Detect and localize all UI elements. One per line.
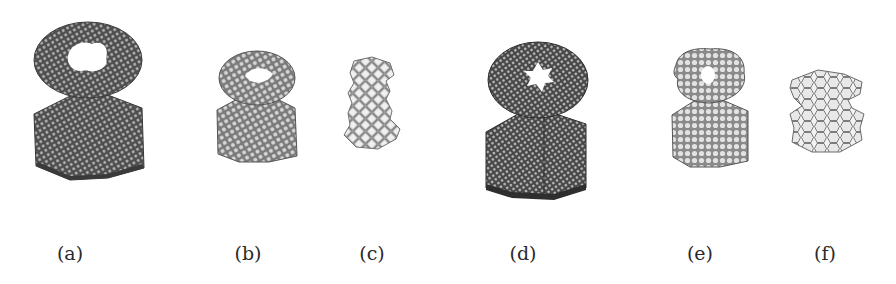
panel-label-b: (b) [235,242,262,264]
panel-label-f: (f) [814,242,836,264]
nanostructure-image-d [482,38,590,202]
nanostructure-image-b [215,48,299,164]
panel-label-d: (d) [510,242,537,264]
nanostructure-image-f [788,66,866,158]
nanostructure-image-c [340,55,406,151]
nanostructure-image-a [30,18,150,184]
panel-label-e: (e) [687,242,713,264]
nanostructure-image-e [670,45,752,171]
panel-label-c: (c) [359,242,384,264]
panel-label-a: (a) [57,242,83,264]
